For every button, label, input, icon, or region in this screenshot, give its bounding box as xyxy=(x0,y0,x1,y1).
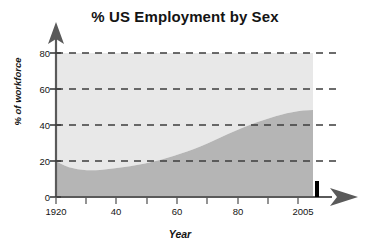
x-axis-arrowhead xyxy=(330,188,358,206)
chart-container: % US Employment by Sex % of workforce Ye… xyxy=(0,0,370,252)
chart-svg xyxy=(0,0,370,252)
year-2005-marker xyxy=(315,181,319,197)
